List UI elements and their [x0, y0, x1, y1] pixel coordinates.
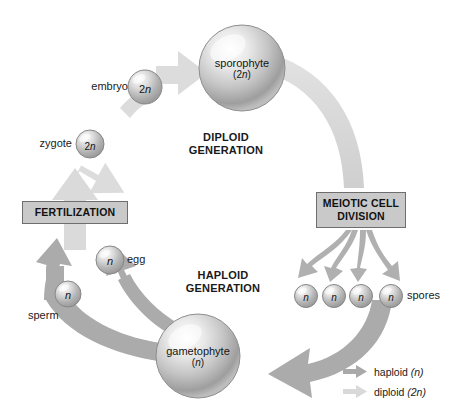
diploid-generation-label: DIPLOID GENERATION	[189, 131, 264, 157]
sphere-embryo	[128, 70, 162, 104]
arrows-meiosis-to-spores	[298, 230, 400, 282]
legend-item-haploid: haploid (n)	[343, 365, 424, 378]
arrow-spores-to-gametophyte	[268, 300, 392, 398]
sphere-spore-3	[350, 285, 373, 308]
sphere-spore-4	[380, 285, 403, 308]
zygote-label: zygote	[40, 137, 72, 150]
sphere-sporophyte	[199, 25, 285, 111]
fertilization-box[interactable]: FERTILIZATION	[22, 201, 128, 224]
sphere-egg	[96, 246, 124, 274]
haploid-generation-label: HAPLOID GENERATION	[186, 269, 261, 295]
legend-haploid-text: haploid (n)	[374, 366, 424, 378]
sphere-zygote	[76, 130, 104, 158]
spores-label: spores	[407, 289, 440, 302]
haploid-arrow-icon	[343, 365, 367, 378]
egg-label: egg	[127, 253, 145, 266]
sphere-sperm	[55, 281, 81, 307]
sphere-spore-2	[323, 285, 346, 308]
life-cycle-diagram: sporophyte (2n) gametophyte (n) embryo 2…	[0, 0, 453, 414]
meiotic-cell-division-box[interactable]: MEIOTIC CELL DIVISION	[316, 192, 406, 228]
diploid-arrow-icon	[343, 385, 367, 398]
sperm-label: sperm	[28, 309, 59, 322]
sphere-gametophyte	[156, 314, 240, 398]
sphere-spore-1	[295, 285, 318, 308]
embryo-label: embryo	[91, 80, 128, 93]
legend-diploid-text: diploid (2n)	[374, 386, 426, 398]
legend-item-diploid: diploid (2n)	[343, 385, 426, 398]
